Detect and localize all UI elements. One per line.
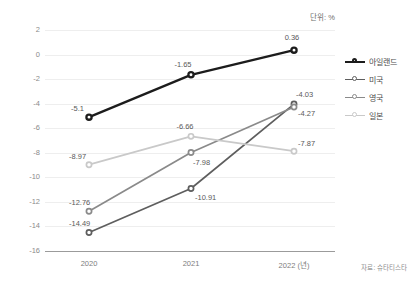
data-point-marker (291, 48, 296, 53)
data-point-label: 0.36 (285, 34, 300, 42)
data-point-marker (86, 162, 91, 167)
source-note: 자료: 슈타티스타 (361, 262, 407, 272)
data-point-marker (188, 72, 193, 77)
legend-marker-icon (345, 110, 365, 120)
legend-item-4[interactable]: 일본 (345, 106, 413, 124)
legend-marker-icon (345, 56, 365, 66)
x-axis-tick-label: 2022 (년) (279, 259, 310, 270)
x-axis-tick-label: 2021 (183, 259, 200, 268)
data-point-label: -7.87 (298, 140, 315, 148)
legend-item-2[interactable]: 미국 (345, 70, 413, 88)
chart-container: 단위: % 20-2-4-6-8-10-12-14-16 -5.1-1.650.… (0, 0, 413, 285)
legend-dot (352, 76, 357, 81)
data-point-marker (291, 104, 296, 109)
data-point-label: -5.1 (71, 105, 84, 113)
chart-legend: 아일랜드미국영국일본 (345, 52, 413, 124)
legend-item-label: 일본 (369, 110, 383, 121)
legend-item-1[interactable]: 아일랜드 (345, 52, 413, 70)
data-point-label: -10.91 (195, 194, 216, 202)
data-point-label: -8.97 (69, 153, 86, 161)
data-point-label: -14.49 (69, 220, 90, 228)
data-point-marker (188, 186, 193, 191)
legend-item-label: 아일랜드 (369, 56, 397, 67)
data-point-label: -12.76 (69, 199, 90, 207)
legend-item-3[interactable]: 영국 (345, 88, 413, 106)
legend-dot (352, 94, 357, 99)
data-point-marker (86, 230, 91, 235)
legend-dot (352, 112, 357, 117)
data-point-marker (291, 149, 296, 154)
data-point-marker (86, 115, 91, 120)
legend-item-label: 영국 (369, 92, 383, 103)
data-point-label: -4.03 (296, 91, 313, 99)
x-axis-tick-label: 2020 (81, 259, 98, 268)
data-point-marker (86, 209, 91, 214)
series-lines-layer (0, 0, 413, 285)
data-point-label: -6.66 (176, 123, 193, 131)
data-point-label: -7.98 (193, 159, 210, 167)
data-point-label: -1.65 (174, 61, 191, 69)
data-point-label: -4.27 (298, 110, 315, 118)
legend-item-label: 미국 (369, 74, 383, 85)
legend-dot (352, 58, 357, 63)
legend-marker-icon (345, 74, 365, 84)
data-point-marker (188, 150, 193, 155)
data-point-marker (188, 134, 193, 139)
legend-marker-icon (345, 92, 365, 102)
